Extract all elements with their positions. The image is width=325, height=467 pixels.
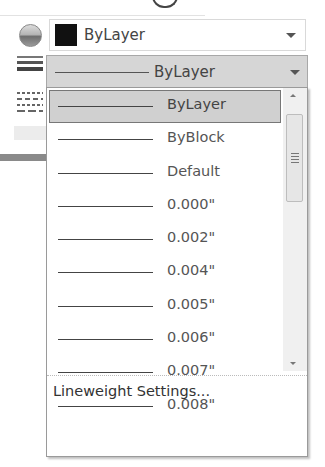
grip-line xyxy=(291,153,299,154)
lineweight-option-byblock[interactable]: ByBlock xyxy=(49,123,281,156)
chevron-down-icon[interactable] xyxy=(290,70,300,75)
option-label: 0.006" xyxy=(167,329,215,345)
color-combo-value: ByLayer xyxy=(84,26,145,44)
lineweight-option-0-005[interactable]: 0.005" xyxy=(49,290,281,323)
option-label: 0.004" xyxy=(167,262,215,278)
lineweight-option-0-000[interactable]: 0.000" xyxy=(49,190,281,223)
grip-line xyxy=(291,162,299,163)
scrollbar-thumb[interactable] xyxy=(286,114,303,202)
color-combo[interactable]: ByLayer xyxy=(49,19,306,51)
grip-line xyxy=(291,159,299,160)
hidden-control-stub xyxy=(14,126,46,140)
color-wheel-icon xyxy=(19,24,42,47)
option-label: Default xyxy=(167,163,220,179)
option-label: 0.005" xyxy=(167,296,215,312)
dropdown-scrollbar[interactable] xyxy=(283,88,307,371)
lineweight-preview xyxy=(58,339,153,340)
lineweight-option-0-004[interactable]: 0.004" xyxy=(49,256,281,289)
chevron-down-icon[interactable] xyxy=(286,33,296,38)
option-label: ByBlock xyxy=(167,129,225,145)
lineweight-preview xyxy=(58,306,153,307)
lineweight-option-0-006[interactable]: 0.006" xyxy=(49,323,281,356)
lineweight-preview xyxy=(58,406,153,407)
lineweight-preview xyxy=(58,372,153,373)
option-label: ByLayer xyxy=(167,96,226,112)
partial-title-glyph xyxy=(152,0,178,8)
lineweight-preview xyxy=(58,139,153,140)
scroll-down-arrow-icon[interactable] xyxy=(290,362,296,365)
divider xyxy=(0,15,205,16)
option-label: 0.000" xyxy=(167,196,215,212)
lineweight-options: ByLayer ByBlock Default 0.000" 0.002" 0.… xyxy=(49,90,281,423)
hidden-control-stub xyxy=(0,154,48,161)
lineweight-option-0-002[interactable]: 0.002" xyxy=(49,223,281,256)
lineweight-icon xyxy=(17,56,43,74)
lineweight-option-default[interactable]: Default xyxy=(49,157,281,190)
scroll-up-arrow-icon[interactable] xyxy=(290,94,296,97)
lineweight-option-bylayer[interactable]: ByLayer xyxy=(49,90,281,123)
lineweight-combo[interactable]: ByLayer xyxy=(46,55,308,88)
lineweight-preview xyxy=(58,272,153,273)
lineweight-settings-link[interactable]: Lineweight Settings... xyxy=(53,383,210,399)
lineweight-preview xyxy=(55,72,149,73)
lineweight-preview xyxy=(58,173,153,174)
grip-line xyxy=(291,156,299,157)
lineweight-preview xyxy=(58,206,153,207)
option-label: 0.002" xyxy=(167,229,215,245)
lineweight-combo-value: ByLayer xyxy=(154,63,215,81)
lineweight-preview xyxy=(58,239,153,240)
footer-divider xyxy=(47,375,307,376)
lineweight-preview xyxy=(58,106,153,107)
lineweight-dropdown-list: ByLayer ByBlock Default 0.000" 0.002" 0.… xyxy=(46,87,308,457)
linetype-icon xyxy=(17,92,43,116)
color-swatch xyxy=(55,24,77,46)
